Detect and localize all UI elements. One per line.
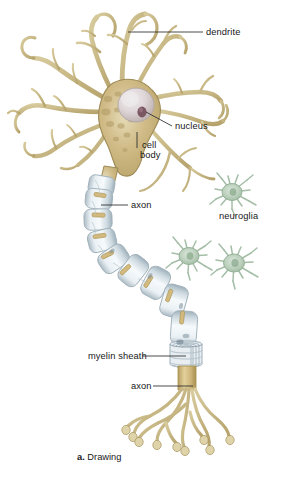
dendrite-branch xyxy=(61,130,108,169)
dendrite-branch xyxy=(136,26,186,89)
label-body: body xyxy=(140,150,161,161)
label-myelin-sheath: myelin sheath xyxy=(88,351,147,362)
neuroglia-cell xyxy=(210,173,256,216)
dendrite-branch xyxy=(8,89,104,132)
label-axon-upper: axon xyxy=(131,200,152,211)
cell-body xyxy=(98,79,160,176)
label-axon-lower: axon xyxy=(131,381,152,392)
synaptic-knobs xyxy=(122,425,234,455)
figure-caption: a. Drawing xyxy=(77,452,121,462)
figure-canvas: dendrite nucleus cell body axon neurogli… xyxy=(0,0,284,485)
caption-text: Drawing xyxy=(87,452,121,462)
label-dendrite: dendrite xyxy=(206,27,240,38)
label-nucleus: nucleus xyxy=(175,121,208,132)
dendrite-branch xyxy=(77,14,115,92)
label-cell: cell xyxy=(142,140,156,151)
label-neuroglia: neuroglia xyxy=(219,211,258,222)
neuroglia-cell xyxy=(166,237,212,280)
neuroglia-cell xyxy=(211,244,258,289)
neuron-illustration xyxy=(0,0,284,485)
axon-terminals xyxy=(128,389,229,447)
caption-letter: a. xyxy=(77,452,85,462)
nucleus xyxy=(118,88,154,122)
neuroglia-group xyxy=(166,173,258,289)
